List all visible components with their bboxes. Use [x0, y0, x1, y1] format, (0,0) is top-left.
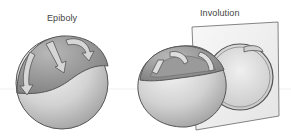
- epiboly-embryo: [16, 36, 108, 129]
- diagram-canvas: [0, 0, 291, 140]
- involution-embryo: [138, 22, 279, 130]
